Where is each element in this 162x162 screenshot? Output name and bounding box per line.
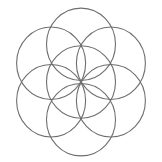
image-canvas	[0, 0, 162, 162]
seed-of-life-figure	[0, 0, 162, 162]
